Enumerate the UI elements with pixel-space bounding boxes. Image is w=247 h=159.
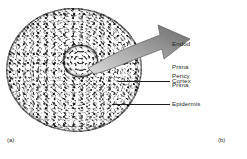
root-cross-section-image <box>6 8 142 132</box>
diagram-label-pericycle: Pericy <box>172 73 190 79</box>
diagram-panel: Endod Prima Pericy Prima <box>160 0 247 159</box>
panel-caption-b: (b) <box>218 137 225 143</box>
diagram-label-primary-1: Prima <box>172 64 189 70</box>
micrograph-panel <box>0 0 160 140</box>
diagram-label-endodermis: Endod <box>172 41 190 47</box>
figure-root: Cortex Epidermis Endod Prima Pericy Prim… <box>0 0 247 159</box>
epidermis-boundary <box>6 8 142 132</box>
diagram-label-primary-2: Prima <box>172 82 189 88</box>
panel-caption-a: (a) <box>7 137 14 143</box>
